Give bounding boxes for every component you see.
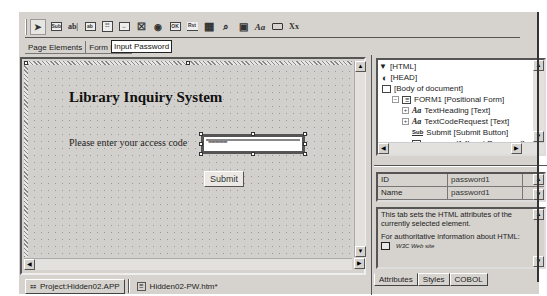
reset-button-tool[interactable]: Rst <box>185 20 199 34</box>
form-resize-handle[interactable] <box>186 61 190 65</box>
document-tabs: ⚏ Project:Hidden02.APP ☰ Hidden02-PW.htm… <box>25 278 222 294</box>
selection-handle[interactable] <box>251 132 255 136</box>
element-tree[interactable]: ▼ [HTML] ◐ [HEAD] [Body of document] − ☰… <box>376 58 546 156</box>
tab-project-label: Project:Hidden02.APP <box>40 282 120 291</box>
collapse-icon[interactable]: − <box>392 96 399 103</box>
hidden-field-icon: Xx <box>289 22 299 31</box>
text-node-icon: Aa <box>412 106 421 115</box>
selection-handle[interactable] <box>303 142 307 146</box>
input-password-icon: ↔ <box>119 22 130 31</box>
frame-tool[interactable]: ▣ <box>236 20 250 34</box>
password-mask: ************** <box>208 141 227 146</box>
ide-window: ➤ Sub ab| ab ☷ ↔ ☒ ◉ OK Rst ▦ ⌕ ▣ Aa Xx … <box>19 12 539 294</box>
checkbox-tool[interactable]: ☒ <box>134 20 148 34</box>
tab-html-document[interactable]: ☰ Hidden02-PW.htm* <box>133 279 222 294</box>
tree-item-label: TextHeading [Text] <box>424 106 490 115</box>
tree-item-label: [HTML] <box>390 62 416 71</box>
tree-item-form1[interactable]: − ☰ FORM1 [Positional Form] <box>392 94 504 105</box>
form-border-left <box>24 61 28 257</box>
tab-attributes[interactable]: Attributes <box>374 273 418 286</box>
form-resize-handle[interactable] <box>24 61 28 65</box>
text-field-tool[interactable]: ab| <box>66 20 80 34</box>
scroll-right-button[interactable]: ▶ <box>511 143 522 154</box>
form-designer: Library Inquiry System Please enter your… <box>20 57 366 275</box>
radio-tool[interactable]: ◉ <box>151 20 165 34</box>
attribute-value-name[interactable]: password1 <box>448 187 523 199</box>
tab-separator <box>128 279 130 293</box>
box-tool[interactable] <box>270 20 284 34</box>
image-tool[interactable]: ▦ <box>202 20 216 34</box>
scroll-right-button[interactable]: ▶ <box>354 258 365 269</box>
form-node-icon: ☰ <box>402 96 411 104</box>
tab-page-elements[interactable]: Page Elements <box>25 41 86 54</box>
pointer-tool-button[interactable]: ➤ <box>30 19 46 35</box>
toolbar-grip[interactable] <box>25 19 27 35</box>
tab-cobol[interactable]: COBOL <box>450 273 488 286</box>
listbox-icon: ☷ <box>102 21 113 32</box>
tree-item-body[interactable]: [Body of document] <box>382 83 463 94</box>
expand-icon[interactable]: + <box>402 107 409 114</box>
ok-button-icon: OK <box>170 22 181 31</box>
reset-button-icon: Rst <box>187 22 198 31</box>
ok-button-tool[interactable]: OK <box>168 20 182 34</box>
password-input[interactable]: ************** <box>201 134 305 154</box>
text-style-icon: Aa <box>255 22 266 32</box>
tab-html-document-label: Hidden02-PW.htm* <box>150 282 218 291</box>
tree-item-label: FORM1 [Positional Form] <box>414 95 504 104</box>
scroll-down-button[interactable]: ▼ <box>355 246 366 257</box>
input-tool[interactable]: ab <box>83 20 97 34</box>
submit-button[interactable]: Submit <box>204 171 244 187</box>
attribute-value-id[interactable]: password1 <box>448 174 523 186</box>
text-heading[interactable]: Library Inquiry System <box>69 89 222 106</box>
html-file-icon: ☰ <box>137 282 146 291</box>
radio-icon: ◉ <box>154 22 162 32</box>
pointer-icon: ➤ <box>34 22 42 32</box>
tree-horizontal-scrollbar[interactable]: ◀ ▶ <box>378 142 544 154</box>
head-node-icon: ◐ <box>382 73 387 83</box>
scroll-left-button[interactable]: ◀ <box>378 143 389 154</box>
window-edge <box>537 12 539 282</box>
selection-handle[interactable] <box>303 132 307 136</box>
listbox-tool[interactable]: ☷ <box>100 20 114 34</box>
input-password-tool[interactable]: ↔ <box>117 20 131 34</box>
tree-item-submit[interactable]: Sub Submit [Submit Button] <box>412 127 508 138</box>
right-panel: ▼ [HTML] ◐ [HEAD] [Body of document] − ☰… <box>371 55 547 295</box>
tab-project[interactable]: ⚏ Project:Hidden02.APP <box>25 279 125 294</box>
tree-item-label: [HEAD] <box>390 73 417 82</box>
submit-button-tool[interactable]: Sub <box>49 20 63 34</box>
input-box-icon: ab <box>85 22 96 31</box>
expand-icon[interactable]: + <box>402 118 409 125</box>
tree-item-label: Submit [Submit Button] <box>426 128 508 137</box>
design-canvas[interactable]: Library Inquiry System Please enter your… <box>24 61 352 257</box>
find-tool[interactable]: ⌕ <box>219 20 233 34</box>
selection-handle[interactable] <box>251 152 255 156</box>
checkbox-icon: ☒ <box>137 21 146 32</box>
tree-item-head[interactable]: ◐ [HEAD] <box>382 72 417 83</box>
tab-styles[interactable]: Styles <box>418 273 450 286</box>
scroll-left-button[interactable]: ◀ <box>24 259 35 270</box>
find-icon: ⌕ <box>223 21 229 33</box>
tree-item-text-code-request[interactable]: + Aa TextCodeRequest [Text] <box>402 116 509 127</box>
tree-item-text-heading[interactable]: + Aa TextHeading [Text] <box>402 105 490 116</box>
designer-horizontal-scrollbar[interactable]: ◀ <box>24 258 352 270</box>
selection-handle[interactable] <box>199 132 203 136</box>
selection-handle[interactable] <box>199 152 203 156</box>
scroll-up-button[interactable]: ▲ <box>355 61 366 72</box>
box-icon <box>272 23 283 30</box>
panel-splitter[interactable] <box>374 165 547 167</box>
attributes-grid: ID password1 Name password1 ▲ ▼ <box>376 172 546 202</box>
tree-item-label: [Body of document] <box>394 84 463 93</box>
selection-handle[interactable] <box>199 142 203 146</box>
text-code-request[interactable]: Please enter your access code <box>69 137 187 148</box>
designer-vertical-scrollbar[interactable]: ▲ ▼ <box>354 61 365 257</box>
property-tabs: Attributes Styles COBOL <box>374 273 488 287</box>
project-icon: ⚏ <box>30 282 36 290</box>
text-style-tool[interactable]: Aa <box>253 20 267 34</box>
tree-item-html[interactable]: ▼ [HTML] <box>379 61 416 72</box>
hidden-field-tool[interactable]: Xx <box>287 20 301 34</box>
w3c-link[interactable]: W3C Web site <box>378 242 544 250</box>
tree-item-label: TextCodeRequest [Text] <box>424 117 509 126</box>
body-node-icon <box>382 85 391 93</box>
w3c-link-label: W3C Web site <box>396 243 434 249</box>
selection-handle[interactable] <box>303 152 307 156</box>
